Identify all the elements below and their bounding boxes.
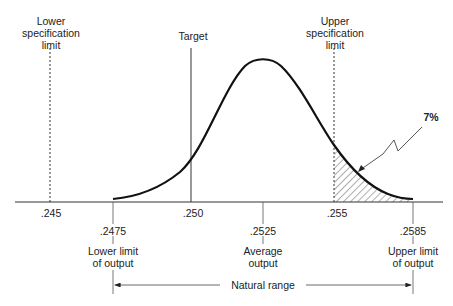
value-2525: .2525 (250, 225, 276, 237)
natural-range-label: Natural range (231, 279, 295, 291)
shaded-tail-region (334, 145, 413, 202)
average-output-line2: output (244, 257, 283, 269)
upper-output-line1: Upper limit (388, 245, 438, 257)
upper-spec-line1: Upper (306, 15, 364, 27)
value-2585: .2585 (400, 225, 426, 237)
lower-spec-limit-label: Lower specification limit (22, 15, 80, 51)
percent-pointer-arrow (360, 127, 422, 170)
tick-245: .245 (41, 207, 61, 219)
percent-label: 7% (423, 111, 438, 123)
average-output-line1: Average (244, 245, 283, 257)
target-label: Target (178, 30, 207, 42)
upper-spec-line2: specification (306, 27, 364, 39)
upper-output-line2: of output (388, 257, 438, 269)
average-output-label: Average output (244, 245, 283, 269)
upper-spec-limit-label: Upper specification limit (306, 15, 364, 51)
lower-spec-line3: limit (22, 39, 80, 51)
value-2475: .2475 (100, 225, 126, 237)
lower-output-line2: of output (88, 257, 138, 269)
percent-pointer-arrowhead (358, 165, 365, 172)
lower-output-line1: Lower limit (88, 245, 138, 257)
tick-250: .250 (183, 207, 203, 219)
lower-limit-output-label: Lower limit of output (88, 245, 138, 269)
upper-limit-output-label: Upper limit of output (388, 245, 438, 269)
upper-spec-line3: limit (306, 39, 364, 51)
bell-curve (113, 59, 413, 199)
lower-spec-line2: specification (22, 27, 80, 39)
lower-spec-line1: Lower (22, 15, 80, 27)
tick-255: .255 (327, 207, 347, 219)
